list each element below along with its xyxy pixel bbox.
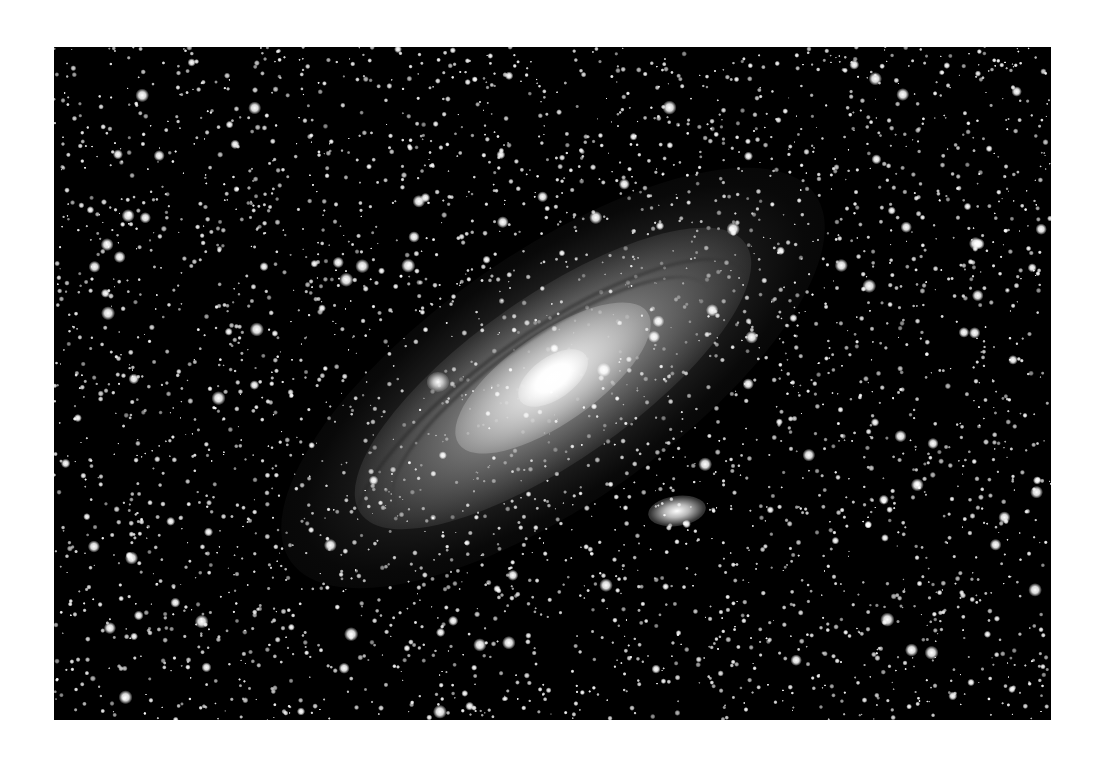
foreground-stars [54,47,1051,720]
galaxy-photo [54,47,1051,720]
